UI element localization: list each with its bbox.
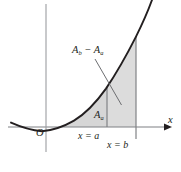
figure-svg	[0, 0, 181, 172]
label-area-difference-a-b: Ab	[72, 44, 82, 55]
label-minus-sign: −	[82, 44, 94, 55]
label-origin: O	[36, 128, 44, 139]
label-x-axis: x	[168, 115, 173, 126]
shaded-region-area-a	[46, 75, 116, 131]
label-area-a: Aa	[94, 110, 104, 121]
label-area-difference: Ab − Aa	[72, 45, 104, 56]
label-x-equals-a: x = a	[78, 131, 99, 141]
label-x-equals-b: x = b	[107, 140, 128, 150]
label-area-difference-a-a: Aa	[94, 44, 104, 55]
figure-container: Ab − Aa Aa x = a x = b O x	[0, 0, 181, 172]
